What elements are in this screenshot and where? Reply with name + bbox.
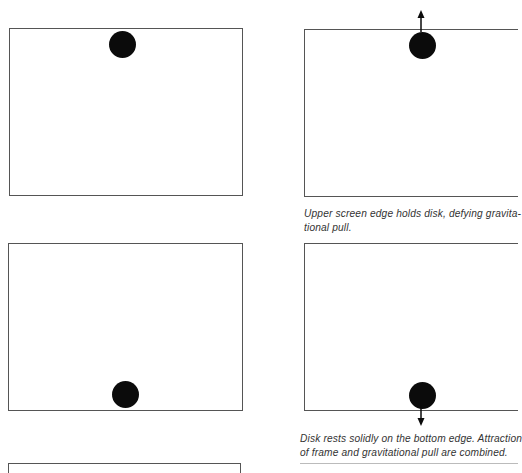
caption-line: Disk rests solidly on the bottom edge. A… — [300, 432, 522, 446]
caption-panel-4: Disk rests solidly on the bottom edge. A… — [300, 432, 522, 460]
disk — [409, 32, 436, 59]
screen-frame-4 — [304, 243, 518, 411]
next-panel-edge — [300, 463, 518, 464]
caption-line: of frame and gravitational pull are comb… — [300, 446, 522, 460]
screen-frame-1 — [9, 28, 243, 196]
disk — [109, 31, 136, 58]
caption-line: tional pull. — [304, 221, 521, 235]
disk — [112, 381, 139, 408]
screen-frame-5 — [8, 463, 241, 473]
caption-panel-2: Upper screen edge holds disk, defying gr… — [304, 207, 521, 235]
arrow-up-icon — [416, 10, 426, 32]
screen-frame-3 — [8, 243, 243, 411]
screen-frame-2 — [304, 29, 518, 197]
caption-line: Upper screen edge holds disk, defying gr… — [304, 207, 521, 221]
arrow-down-icon — [416, 405, 426, 427]
